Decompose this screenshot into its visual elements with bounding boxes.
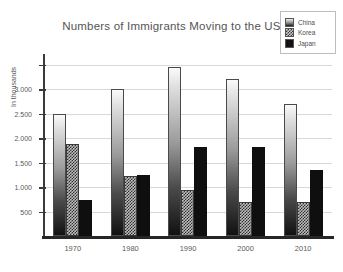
bar-group-1970 — [53, 60, 92, 236]
bar-korea-1990[interactable] — [181, 190, 194, 236]
bar-japan-1980[interactable] — [137, 175, 150, 236]
bar-china-1980[interactable] — [111, 89, 124, 236]
plot-area: 5001.0001.5002.0002.5003.000 — [44, 60, 332, 236]
x-axis-line — [42, 236, 334, 239]
bar-korea-2010[interactable] — [297, 202, 310, 236]
legend-swatch-korea-icon — [285, 28, 294, 37]
bar-group-1980 — [111, 60, 150, 236]
bar-korea-1970[interactable] — [66, 144, 79, 236]
chart-container: Numbers of Immigrants Moving to the US C… — [0, 0, 343, 272]
bar-group-2000 — [226, 60, 265, 236]
y-tick-label: 1.000 — [14, 184, 32, 191]
x-axis-labels: 19701980199020002010 — [44, 244, 332, 253]
x-tick-label-1980: 1980 — [122, 244, 139, 253]
legend-item-china[interactable]: China — [285, 18, 332, 27]
x-tick-label-2000: 2000 — [237, 244, 254, 253]
legend-label-japan: Japan — [298, 40, 316, 47]
bar-japan-1970[interactable] — [79, 200, 92, 236]
y-tick-label: 1.500 — [14, 159, 32, 166]
legend-swatch-japan-icon — [285, 39, 294, 48]
legend-item-korea[interactable]: Korea — [285, 28, 332, 37]
plot-wrapper: 5001.0001.5002.0002.5003.000 — [44, 60, 332, 236]
bar-china-2010[interactable] — [284, 104, 297, 236]
bar-group-2010 — [284, 60, 323, 236]
bar-china-2000[interactable] — [226, 79, 239, 236]
chart-legend: China Korea Japan — [280, 11, 336, 54]
x-tick-label-1970: 1970 — [64, 244, 81, 253]
legend-item-japan[interactable]: Japan — [285, 39, 332, 48]
bar-japan-2000[interactable] — [252, 147, 265, 236]
legend-label-china: China — [298, 19, 315, 26]
legend-swatch-china-icon — [285, 18, 294, 27]
bar-china-1970[interactable] — [53, 114, 66, 236]
bar-groups — [44, 60, 332, 236]
y-tick-label: 3.000 — [14, 86, 32, 93]
bar-group-1990 — [168, 60, 207, 236]
y-tick-label: 500 — [20, 208, 32, 215]
bar-korea-2000[interactable] — [239, 202, 252, 236]
y-tick-label: 2.000 — [14, 135, 32, 142]
bar-japan-2010[interactable] — [310, 170, 323, 236]
x-tick-label-2010: 2010 — [295, 244, 312, 253]
legend-label-korea: Korea — [298, 29, 315, 36]
bar-japan-1990[interactable] — [194, 147, 207, 236]
bar-china-1990[interactable] — [168, 67, 181, 236]
x-tick-label-1990: 1990 — [180, 244, 197, 253]
bar-korea-1980[interactable] — [124, 176, 137, 236]
y-tick-label: 2.500 — [14, 110, 32, 117]
